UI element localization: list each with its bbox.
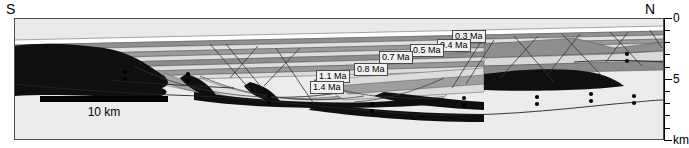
scale-bar-group: 10 km (40, 96, 168, 119)
horizon-label-0-8ma: 0.8 Ma (354, 63, 388, 76)
depth-tick-5 (664, 79, 672, 80)
depth-tick-3 (664, 54, 670, 55)
depth-tick-8 (664, 115, 670, 116)
depth-tick-1 (664, 30, 670, 31)
direction-label-north: N (645, 2, 655, 16)
horizon-label-1-4ma: 1.4 Ma (310, 81, 344, 94)
depth-tick-7 (664, 103, 670, 104)
depth-axis: 0 5 km (664, 18, 688, 142)
depth-label-5: 5 (673, 73, 680, 85)
depth-label-0: 0 (673, 12, 680, 24)
depth-tick-10 (664, 140, 672, 141)
horizon-label-0-5ma: 0.5 Ma (410, 44, 444, 57)
scale-bar-label: 10 km (40, 105, 168, 119)
direction-label-south: S (6, 2, 15, 16)
depth-tick-4 (664, 67, 670, 68)
depth-tick-6 (664, 91, 670, 92)
depth-tick-2 (664, 42, 670, 43)
scale-bar (40, 96, 168, 102)
depth-tick-9 (664, 128, 670, 129)
depth-tick-0 (664, 18, 672, 19)
depth-axis-unit: km (673, 134, 689, 146)
